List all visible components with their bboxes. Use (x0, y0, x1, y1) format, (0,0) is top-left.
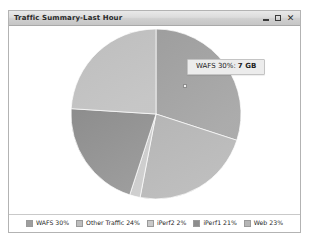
legend-item[interactable]: iPerf1 21% (193, 220, 236, 227)
legend-item-label: iPerf1 21% (203, 220, 236, 226)
close-icon[interactable]: ✕ (286, 14, 295, 23)
chart-area: WAFS 30%:7 GB (9, 26, 300, 214)
legend-swatch-icon (193, 220, 200, 227)
legend-item[interactable]: Web 23% (244, 220, 283, 227)
legend-item-label: WAFS 30% (36, 220, 69, 226)
legend-item-label: Web 23% (254, 220, 283, 226)
legend-swatch-icon (76, 220, 83, 227)
chart-window: Traffic Summary-Last Hour ✕ WAFS 30%:7 G… (8, 10, 301, 233)
maximize-icon[interactable] (274, 14, 282, 23)
window-controls: ✕ (262, 14, 297, 23)
legend-swatch-icon (244, 220, 251, 227)
legend-swatch-icon (26, 220, 33, 227)
legend-item[interactable]: Other Traffic 24% (76, 220, 140, 227)
window-title: Traffic Summary-Last Hour (14, 15, 122, 22)
legend-item[interactable]: iPerf2 2% (147, 220, 186, 227)
legend-item-label: Other Traffic 24% (86, 220, 140, 226)
legend-item-label: iPerf2 2% (157, 220, 186, 226)
tooltip-label: WAFS 30%: (196, 62, 236, 70)
pie-slice[interactable] (71, 29, 156, 114)
legend-swatch-icon (147, 220, 154, 227)
window-titlebar[interactable]: Traffic Summary-Last Hour ✕ (9, 11, 300, 26)
pie-chart-svg[interactable] (9, 26, 300, 214)
minimize-icon[interactable] (262, 14, 270, 23)
tooltip-value: 7 GB (238, 62, 256, 70)
data-point-marker[interactable] (183, 84, 187, 88)
chart-legend: WAFS 30%Other Traffic 24%iPerf2 2%iPerf1… (9, 214, 300, 232)
legend-item[interactable]: WAFS 30% (26, 220, 69, 227)
pie-chart[interactable] (9, 26, 300, 214)
chart-tooltip: WAFS 30%:7 GB (187, 59, 265, 75)
screenshot-root: Traffic Summary-Last Hour ✕ WAFS 30%:7 G… (0, 0, 310, 245)
